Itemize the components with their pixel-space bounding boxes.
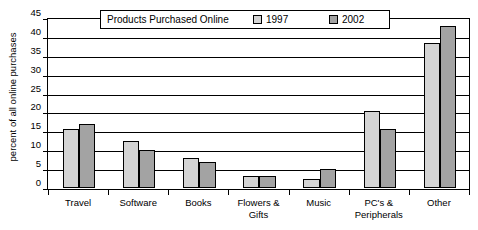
x-axis-tick-mark (108, 190, 109, 195)
bar-group (169, 20, 229, 188)
y-axis-tick-mark (43, 95, 47, 96)
y-axis-tick-mark (43, 57, 47, 58)
bar-2002 (320, 169, 336, 188)
x-axis-label-line: Books (168, 197, 228, 209)
y-axis-tick-label: 5 (3, 158, 47, 170)
bar-2002 (259, 176, 275, 188)
x-axis-label: Music (289, 197, 349, 209)
x-axis-label: Other (409, 197, 469, 209)
x-axis-label-line: Other (409, 197, 469, 209)
x-axis-label: Flowers &Gifts (228, 197, 288, 221)
legend-entry-2002: 2002 (329, 14, 364, 25)
y-axis-tick-mark (43, 19, 47, 20)
y-axis-tick-mark (43, 189, 47, 190)
y-axis-tick-label: 20 (3, 101, 47, 113)
bar-group (410, 20, 470, 188)
y-axis-tick-label: 30 (3, 64, 47, 76)
bar-group (350, 20, 410, 188)
bar-2002 (139, 150, 155, 188)
x-axis-tick-mark (289, 190, 290, 195)
bar-1997 (364, 111, 380, 188)
bar-1997 (424, 43, 440, 188)
bar-2002 (380, 129, 396, 188)
legend-swatch-1997 (253, 15, 262, 24)
legend-label-1997: 1997 (266, 14, 288, 25)
y-axis-tick-label: 35 (3, 45, 47, 57)
x-axis-label: Travel (48, 197, 108, 209)
x-axis-label-line: PC's & (349, 197, 409, 209)
plot-area (47, 18, 470, 190)
bar-1997 (243, 176, 259, 188)
x-axis-tick-mark (469, 190, 470, 195)
y-axis-tick-mark (43, 113, 47, 114)
bar-group (109, 20, 169, 188)
x-axis-tick-mark (409, 190, 410, 195)
y-axis-tick-label: 0 (3, 177, 47, 189)
y-axis-tick-mark (43, 38, 47, 39)
y-axis-tick-label: 10 (3, 139, 47, 151)
x-axis-label: Books (168, 197, 228, 209)
bar-1997 (303, 179, 319, 188)
x-axis-tick-mark (48, 190, 49, 195)
legend-label-2002: 2002 (342, 14, 364, 25)
chart-title: Products Purchased Online (107, 14, 229, 25)
bar-group (290, 20, 350, 188)
legend-and-title-box: Products Purchased Online 1997 2002 (100, 10, 390, 29)
x-axis-tick-mark (349, 190, 350, 195)
x-axis-label-line: Software (108, 197, 168, 209)
legend-entry-1997: 1997 (253, 14, 288, 25)
x-axis-label-line: Gifts (228, 209, 288, 221)
bar-group (49, 20, 109, 188)
y-axis-tick-label: 15 (3, 120, 47, 132)
y-axis-tick-mark (43, 170, 47, 171)
y-axis-tick-mark (43, 132, 47, 133)
y-axis-tick-mark (43, 151, 47, 152)
y-axis-tick-label: 40 (3, 26, 47, 38)
bar-2002 (199, 162, 215, 188)
legend-swatch-2002 (329, 15, 338, 24)
bar-2002 (79, 124, 95, 188)
bar-1997 (63, 129, 79, 188)
bar-2002 (440, 26, 456, 188)
x-axis-label-line: Travel (48, 197, 108, 209)
y-axis-tick-label: 45 (3, 7, 47, 19)
x-axis-label: Software (108, 197, 168, 209)
x-axis-label-line: Music (289, 197, 349, 209)
x-axis-tick-mark (228, 190, 229, 195)
y-axis-tick-label: 25 (3, 83, 47, 95)
bar-1997 (123, 141, 139, 188)
x-axis-label-line: Flowers & (228, 197, 288, 209)
bar-group (229, 20, 289, 188)
bars-container (49, 20, 468, 188)
y-axis-tick-mark (43, 76, 47, 77)
bar-1997 (183, 158, 199, 188)
x-axis-label: PC's &Peripherals (349, 197, 409, 221)
x-axis-tick-mark (168, 190, 169, 195)
x-axis-label-line: Peripherals (349, 209, 409, 221)
chart-root: percent of all online purchases 05101520… (0, 0, 478, 230)
